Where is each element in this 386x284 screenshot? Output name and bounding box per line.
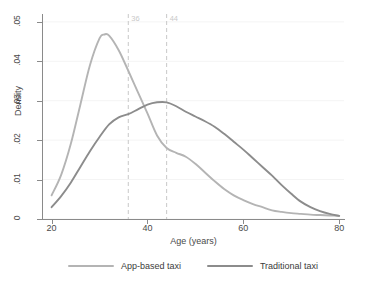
- y-tick: [37, 101, 42, 102]
- gridlines: [42, 22, 344, 219]
- x-tick-label: 60: [223, 223, 263, 233]
- y-axis-line: [42, 14, 43, 220]
- chart-canvas: [42, 14, 344, 219]
- y-tick-label: 0: [12, 201, 22, 235]
- legend-line-icon: [68, 265, 114, 267]
- reference-lines: [128, 14, 166, 219]
- chart-legend: App-based taxiTraditional taxi: [0, 258, 386, 274]
- y-tick-label: .05: [12, 4, 22, 38]
- legend-item[interactable]: App-based taxi: [68, 261, 181, 271]
- reference-line-label: 44: [170, 14, 178, 23]
- legend-label: Traditional taxi: [260, 261, 318, 271]
- x-tick-label: 80: [319, 223, 359, 233]
- density-chart-figure: 0.01.02.03.04.05 20406080 3644 Density A…: [0, 0, 386, 284]
- y-axis-title: Density: [13, 61, 23, 141]
- y-tick-label: .01: [12, 162, 22, 196]
- y-tick: [37, 219, 42, 220]
- x-axis-title: Age (years): [42, 236, 345, 246]
- y-tick: [37, 22, 42, 23]
- y-tick: [37, 140, 42, 141]
- reference-line-label: 36: [131, 14, 139, 23]
- y-tick: [37, 180, 42, 181]
- y-tick: [37, 61, 42, 62]
- legend-line-icon: [207, 265, 253, 267]
- legend-item[interactable]: Traditional taxi: [207, 261, 318, 271]
- x-tick-label: 20: [32, 223, 72, 233]
- x-axis-line: [42, 219, 345, 220]
- plot-area: [42, 14, 344, 219]
- x-tick-label: 40: [127, 223, 167, 233]
- legend-label: App-based taxi: [121, 261, 181, 271]
